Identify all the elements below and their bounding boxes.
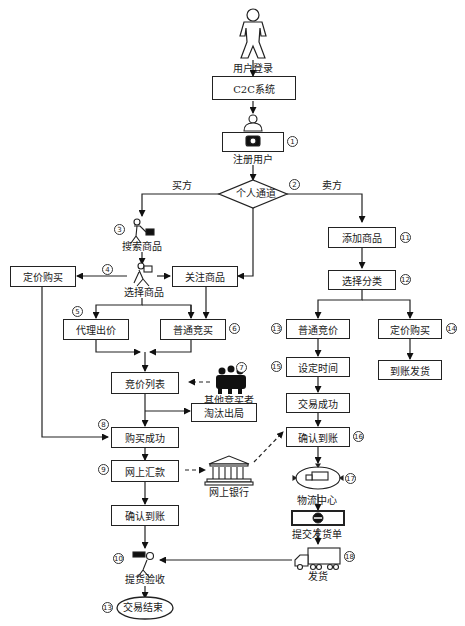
- c2c-system-box: C2C系统: [212, 76, 296, 100]
- shipping-label: 发货: [308, 572, 328, 582]
- bid-list-box: 竞价列表: [111, 372, 179, 394]
- step-number-16: 16: [353, 431, 364, 442]
- step-number-11: 11: [400, 232, 411, 243]
- purchase-success-box: 购买成功: [111, 427, 179, 448]
- step-number-18: 18: [344, 551, 355, 562]
- step-number-9: 9: [98, 464, 109, 475]
- step-number-1: 1: [287, 136, 298, 147]
- register-user-box: [222, 132, 284, 152]
- step-number-12: 12: [400, 274, 411, 285]
- select-category-box: 选择分类: [328, 270, 396, 290]
- buyer-branch-label: 买方: [172, 181, 192, 191]
- add-goods-box: 添加商品: [328, 227, 396, 248]
- step-number-6: 6: [229, 323, 240, 334]
- online-bank-label: 网上银行: [209, 488, 249, 498]
- delivery-truck-icon: [295, 548, 340, 570]
- register-user-label: 注册用户: [233, 155, 273, 165]
- step-number-4: 4: [102, 264, 113, 275]
- eliminated-box: 淘汰出局: [191, 403, 257, 422]
- bank-building-icon: [205, 456, 253, 485]
- shopper-cart-icon: [131, 219, 154, 243]
- confirm-receipt-right-box: 确认到账: [286, 427, 350, 447]
- select-goods-label: 选择商品: [124, 288, 164, 298]
- logistics-center-label: 物流中心: [297, 496, 337, 506]
- user-login-label: 用户登录: [233, 64, 273, 74]
- pickup-inspect-label: 提货验收: [125, 575, 165, 585]
- carrying-person-icon: [134, 263, 152, 286]
- invoice-icon: [292, 511, 344, 525]
- online-remit-box: 网上汇款: [111, 460, 179, 482]
- personal-channel-label: 个人通道: [236, 189, 276, 199]
- step-number-10: 10: [113, 553, 124, 564]
- step-number-5: 5: [72, 306, 83, 317]
- step-number-8: 8: [98, 419, 109, 430]
- fixed-price-buy-left-box: 定价购买: [10, 266, 76, 287]
- follow-goods-box: 关注商品: [172, 266, 238, 287]
- person-icon: [240, 9, 266, 58]
- seller-branch-label: 卖方: [322, 181, 342, 191]
- trade-end-label: 交易结束: [123, 603, 163, 613]
- search-goods-label: 搜索商品: [122, 242, 162, 252]
- trade-success-box: 交易成功: [286, 393, 350, 413]
- step-number-14: 14: [446, 323, 457, 334]
- proxy-bid-box: 代理出价: [63, 319, 129, 340]
- step-number-17: 17: [345, 473, 356, 484]
- step-number-15: 15: [271, 361, 282, 372]
- set-time-box: 设定时间: [286, 357, 350, 377]
- step-number-2: 2: [289, 179, 300, 190]
- step-number-7: 7: [236, 362, 247, 373]
- normal-bid-box: 普通竞价: [286, 319, 350, 339]
- ship-on-payment-box: 到账发货: [378, 360, 442, 380]
- step-number-13b: 13: [102, 602, 113, 613]
- logistics-truck-icon: [293, 464, 343, 489]
- fixed-price-buy-right-box: 定价购买: [378, 319, 442, 339]
- submit-invoice-label: 提交发货单: [292, 530, 342, 540]
- confirm-receipt-left-box: 确认到账: [111, 505, 179, 526]
- step-number-3: 3: [114, 224, 125, 235]
- normal-auction-buy-box: 普通竞买: [160, 319, 226, 340]
- step-number-13: 13: [271, 323, 282, 334]
